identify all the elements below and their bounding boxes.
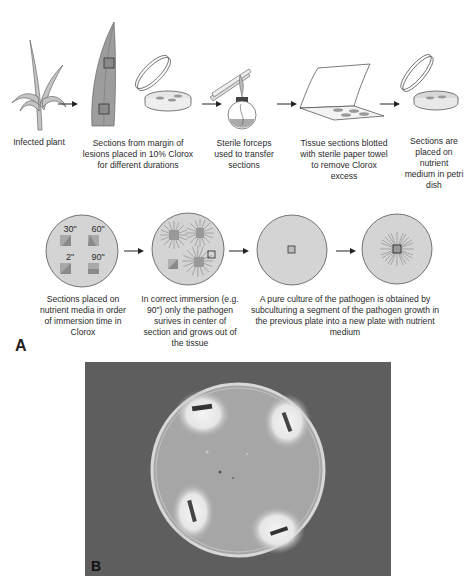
caption-immersion-order: Sections placed on nutrient media in ord… bbox=[38, 294, 128, 338]
petri-dish-photo: B bbox=[85, 362, 391, 576]
leaf-sections-illustration bbox=[88, 22, 118, 127]
arrow-icon bbox=[124, 248, 144, 254]
time-label-2: 2" bbox=[58, 252, 82, 263]
plate-subculture bbox=[255, 213, 329, 287]
time-label-60: 60" bbox=[86, 224, 110, 235]
caption-placed-petri: Sections are placed on nutrient medium i… bbox=[404, 136, 464, 191]
panel-b-label: B bbox=[91, 558, 101, 574]
petri-dish-clorox bbox=[132, 54, 192, 114]
arrow-icon bbox=[277, 101, 297, 107]
paper-towel-illustration bbox=[296, 62, 386, 122]
forceps-burner-illustration bbox=[208, 55, 268, 130]
infected-plant-illustration bbox=[8, 35, 68, 135]
plate-pure-culture bbox=[360, 212, 434, 286]
caption-infected-plant: Infected plant bbox=[4, 137, 74, 148]
arrow-icon bbox=[336, 248, 356, 254]
caption-sterile-forceps: Sterile forceps used to transfer section… bbox=[208, 138, 280, 171]
arrow-icon bbox=[380, 101, 400, 107]
arrow-icon bbox=[229, 248, 249, 254]
panel-a-label: A bbox=[15, 337, 27, 355]
caption-sections-clorox: Sections from margin of lesions placed i… bbox=[82, 138, 194, 171]
caption-pure-culture: A pure culture of the pathogen is obtain… bbox=[250, 294, 440, 338]
petri-dish-nutrient bbox=[400, 52, 460, 112]
time-label-90: 90" bbox=[86, 252, 110, 263]
arrow-icon bbox=[58, 101, 78, 107]
plate-correct-immersion bbox=[150, 211, 226, 287]
time-label-30: 30" bbox=[58, 224, 82, 235]
caption-correct-immersion: In correct immersion (e.g. 90") only the… bbox=[140, 294, 240, 349]
caption-blotted: Tissue sections blotted with sterile pap… bbox=[298, 138, 390, 182]
